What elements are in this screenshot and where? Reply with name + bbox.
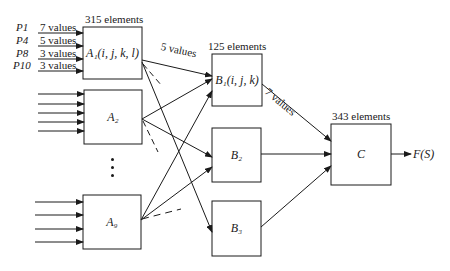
values-label-p1: 7 values — [40, 22, 76, 33]
param-label-p4: P4 — [16, 35, 28, 46]
values-label-p8: 3 values — [40, 48, 76, 59]
box-b1-label: B₁(i, j, k) — [212, 74, 262, 86]
param-label-p10: P10 — [13, 60, 31, 71]
stage-a-elements: 315 elements — [85, 14, 143, 25]
box-a9-label: A₉ — [83, 216, 141, 228]
edge-a1-b3 — [142, 62, 212, 232]
edge-a2-dashed — [143, 121, 158, 152]
edge-a1-dashed — [143, 64, 162, 86]
box-a1-label: A₁(i, j, k, l) — [83, 47, 142, 59]
stage-b-elements: 125 elements — [208, 41, 266, 52]
ellipsis-dot — [111, 166, 114, 169]
edge-a2-b2 — [142, 119, 212, 157]
box-a2-label: A₂ — [84, 111, 142, 123]
values-label-p4: 5 values — [40, 35, 76, 46]
edge-a9-dashed — [142, 209, 181, 219]
param-label-p8: P8 — [16, 48, 28, 59]
edge-a1-b1 — [142, 60, 212, 76]
edge-b3-c — [261, 166, 331, 227]
output-label: F(S) — [413, 148, 434, 160]
ellipsis-dot — [111, 158, 114, 161]
ellipsis-dot — [111, 174, 114, 177]
param-label-p1: P1 — [16, 22, 28, 33]
box-b2-label: B₂ — [212, 149, 261, 161]
edge-a2-b1 — [142, 79, 212, 119]
edge-a9-b2 — [141, 167, 212, 220]
box-b3-label: B₃ — [212, 222, 261, 234]
stage-c-elements: 343 elements — [332, 111, 390, 122]
values-label-p10: 3 values — [40, 60, 76, 71]
box-c-label: C — [331, 148, 391, 160]
edge-a9-b1 — [141, 91, 212, 220]
